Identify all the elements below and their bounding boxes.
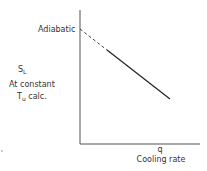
cooling-rate-label: Cooling rate [128, 155, 194, 164]
cooling-trend-line [107, 50, 170, 99]
adiabatic-extrapolation-dashed [80, 29, 107, 50]
sl-subscript: L [23, 68, 26, 75]
q-label: q [150, 145, 170, 154]
tu-subscript: u [22, 95, 26, 102]
adiabatic-label: Adiabatic [38, 25, 75, 34]
tu-calc-label: Tu calc. [17, 92, 47, 101]
at-constant-label: At constant [9, 80, 55, 89]
sl-label: SL [18, 65, 38, 74]
tu-rest: calc. [26, 92, 47, 101]
stray-dot [1, 150, 3, 152]
